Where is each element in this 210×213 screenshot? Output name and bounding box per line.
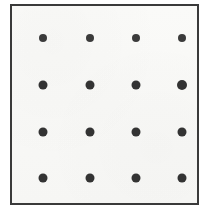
dot-r0-c0 <box>39 34 47 42</box>
dot-r0-c1 <box>86 34 94 42</box>
dot-r2-c3 <box>178 128 187 137</box>
dot-r1-c0 <box>39 81 48 90</box>
dot-r3-c2 <box>132 174 141 183</box>
dot-r3-c3 <box>178 174 187 183</box>
dot-matrix <box>12 6 197 203</box>
dot-r1-c1 <box>86 81 95 90</box>
dot-r1-c3 <box>177 80 187 90</box>
dot-r1-c2 <box>132 81 141 90</box>
dot-r2-c1 <box>86 128 95 137</box>
dot-r2-c0 <box>39 128 48 137</box>
dot-grid-figure <box>0 0 210 213</box>
bordered-square-panel <box>10 4 199 205</box>
dot-r2-c2 <box>132 128 141 137</box>
dot-r0-c3 <box>178 34 186 42</box>
dot-r0-c2 <box>132 34 140 42</box>
dot-r3-c0 <box>39 174 48 183</box>
dot-r3-c1 <box>86 174 95 183</box>
